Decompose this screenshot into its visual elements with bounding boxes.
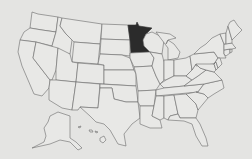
state-alaska[interactable] (32, 112, 82, 150)
state-north-dakota[interactable] (101, 24, 130, 40)
state-rhode-island[interactable] (230, 49, 232, 53)
state-colorado[interactable] (76, 63, 104, 84)
state-south-dakota[interactable] (100, 39, 130, 56)
state-florida[interactable] (168, 114, 208, 146)
state-arizona[interactable] (49, 80, 76, 110)
us-map (0, 0, 252, 159)
state-hawaii[interactable] (78, 126, 106, 143)
state-new-mexico[interactable] (72, 82, 100, 110)
state-arkansas[interactable] (138, 90, 156, 106)
state-iowa[interactable] (130, 52, 154, 67)
state-kansas[interactable] (104, 70, 136, 86)
state-wyoming[interactable] (72, 42, 100, 64)
